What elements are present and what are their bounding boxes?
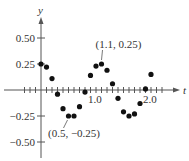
y-axis-arrow-icon [39,17,44,24]
data-point [110,81,115,86]
data-point [115,96,120,101]
data-point [93,63,98,68]
data-point [82,89,87,94]
y-tick-label: −0.50 [10,136,36,148]
annotation-label: (0.5, −0.25) [48,127,100,140]
data-point [132,111,137,116]
data-point [148,72,153,77]
scatter-chart: ty1.02.00.500.25−0.25−0.50(1.1, 0.25)(0.… [0,0,189,161]
annotation-leader [102,50,103,60]
data-point [121,109,126,114]
data-point [126,113,131,118]
data-point [88,73,93,78]
x-tick-label: 1.0 [88,93,102,105]
data-point [143,86,148,91]
x-axis-arrow-icon [173,88,180,93]
data-point [38,61,43,66]
data-point [104,68,109,73]
x-tick-label: 2.0 [143,93,157,105]
y-tick-label: −0.25 [10,110,36,122]
data-point [71,113,76,118]
data-point [137,101,142,106]
x-axis-label: t [183,84,187,96]
data-point [60,106,65,111]
data-point [99,61,104,66]
y-axis-label: y [37,4,43,16]
data-point [77,104,82,109]
data-point [55,92,60,97]
y-tick-label: 0.25 [16,58,36,70]
annotation-label: (1.1, 0.25) [96,38,142,51]
y-tick-label: 0.50 [16,32,36,44]
data-point [44,65,49,70]
data-point [66,113,71,118]
data-point [49,76,54,81]
